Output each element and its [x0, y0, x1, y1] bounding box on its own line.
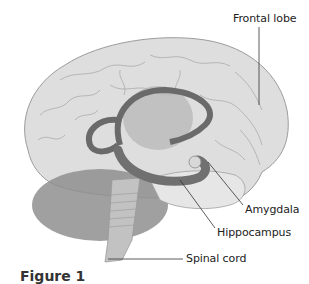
label-spinal-cord: Spinal cord: [186, 252, 246, 265]
label-frontal-lobe: Frontal lobe: [233, 12, 296, 25]
figure-caption: Figure 1: [20, 268, 85, 284]
label-hippocampus: Hippocampus: [217, 226, 291, 239]
amygdala-shape: [189, 156, 201, 168]
label-amygdala: Amygdala: [245, 203, 299, 216]
